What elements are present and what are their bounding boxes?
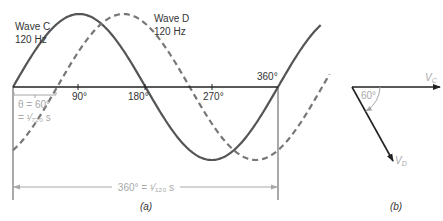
period-label: 360° = ¹⁄₁₂₀ s: [118, 182, 174, 193]
vc-label: VC: [425, 72, 438, 84]
phase-time-label: = ¹⁄₇₂₀ s: [18, 112, 51, 123]
wave-c-name: Wave C: [15, 21, 50, 32]
phase-bracket: [14, 92, 56, 95]
panel-a-caption: (a): [140, 201, 152, 212]
wave-d-name: Wave D: [154, 13, 189, 24]
panel-b: 60° VC VD (b): [352, 72, 440, 212]
vd-label: VD: [395, 155, 407, 167]
panel-a: 90° 180° 270° 360° Wave C 120 Hz Wave D …: [13, 13, 330, 212]
tick-label-270: 270°: [203, 91, 224, 102]
phase-angle-label: θ = 60°: [18, 99, 50, 110]
wave-c-frequency: 120 Hz: [15, 34, 47, 45]
panel-b-caption: (b): [390, 201, 402, 212]
phase-diagram: 90° 180° 270° 360° Wave C 120 Hz Wave D …: [0, 0, 443, 221]
tick-label-90: 90°: [72, 91, 87, 102]
tick-label-180: 180°: [128, 91, 149, 102]
tick-label-360: 360°: [257, 71, 278, 82]
wave-d-frequency: 120 Hz: [154, 26, 186, 37]
angle-label: 60°: [361, 90, 376, 101]
